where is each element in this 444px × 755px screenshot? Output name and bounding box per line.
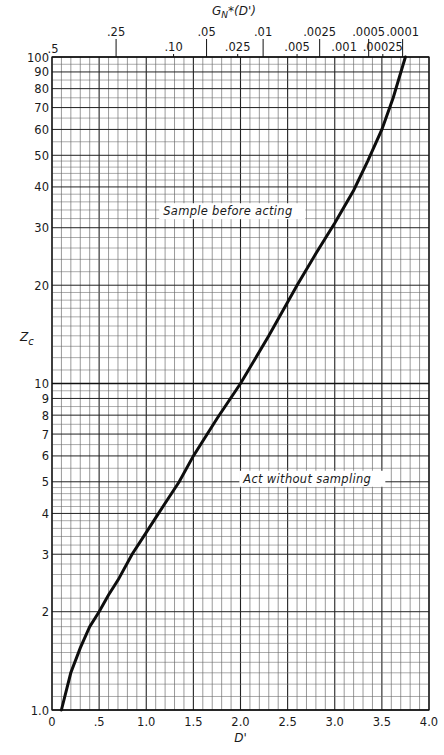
x-tick-label: 2.0 [231, 715, 249, 729]
top-tick-label: .05 [197, 25, 215, 39]
x-axis-ticks: 0.51.01.52.02.53.03.54.0 [48, 715, 438, 729]
top-tick-label: .25 [107, 25, 125, 39]
x-tick-label: 1.5 [184, 715, 202, 729]
y-tick-label: 40 [34, 180, 49, 194]
y-tick-label: 90 [34, 65, 49, 79]
x-tick-label: 3.5 [373, 715, 391, 729]
y-tick-label: 7 [42, 428, 49, 442]
top-tick-label: .0001 [386, 25, 419, 39]
x-tick-label: 1.0 [137, 715, 155, 729]
top-tick-label: .005 [284, 40, 310, 54]
x-tick-label: .5 [94, 715, 105, 729]
y-tick-label: 6 [42, 449, 49, 463]
y-axis-ticks: 1.023456789102030405060708090100 [27, 51, 49, 718]
top-tick-label: .00025 [363, 40, 403, 54]
y-tick-label: 9 [42, 392, 49, 406]
top-tick-label: .10 [164, 40, 182, 54]
y-tick-label: 8 [42, 409, 49, 423]
decision-chart: Sample before actingAct without sampling… [0, 0, 444, 755]
annotation-label: Act without sampling [242, 472, 371, 486]
y-tick-label: 1.0 [31, 704, 49, 718]
y-axis-label: Zc [19, 330, 34, 347]
y-tick-label: 2 [42, 605, 49, 619]
top-tick-label: .0005 [352, 25, 385, 39]
top-tick-label: .025 [225, 40, 251, 54]
top-axis-label: GN*(D') [212, 4, 256, 20]
y-tick-label: 4 [42, 507, 49, 521]
top-axis-ticks: .5.25.10.05.025.01.005.0025.001.0005.000… [48, 25, 420, 57]
top-tick-label: .0025 [303, 25, 336, 39]
y-tick-label: 50 [34, 149, 49, 163]
top-tick-label: .01 [254, 25, 272, 39]
y-tick-label: 60 [34, 123, 49, 137]
x-axis-label: D' [234, 731, 247, 745]
y-tick-label: 30 [34, 221, 49, 235]
y-tick-label: 20 [34, 279, 49, 293]
top-tick-label: .5 [48, 42, 59, 56]
x-tick-label: 2.5 [278, 715, 296, 729]
y-tick-label: 100 [27, 51, 49, 65]
x-tick-label: 4.0 [420, 715, 438, 729]
y-tick-label: 80 [34, 82, 49, 96]
y-tick-label: 3 [42, 548, 49, 562]
x-tick-label: 0 [48, 715, 55, 729]
x-tick-label: 3.0 [326, 715, 344, 729]
annotation-label: Sample before acting [163, 204, 292, 218]
y-tick-label: 10 [34, 377, 49, 391]
y-tick-label: 70 [34, 101, 49, 115]
top-tick-label: .001 [331, 40, 357, 54]
y-tick-label: 5 [42, 475, 49, 489]
